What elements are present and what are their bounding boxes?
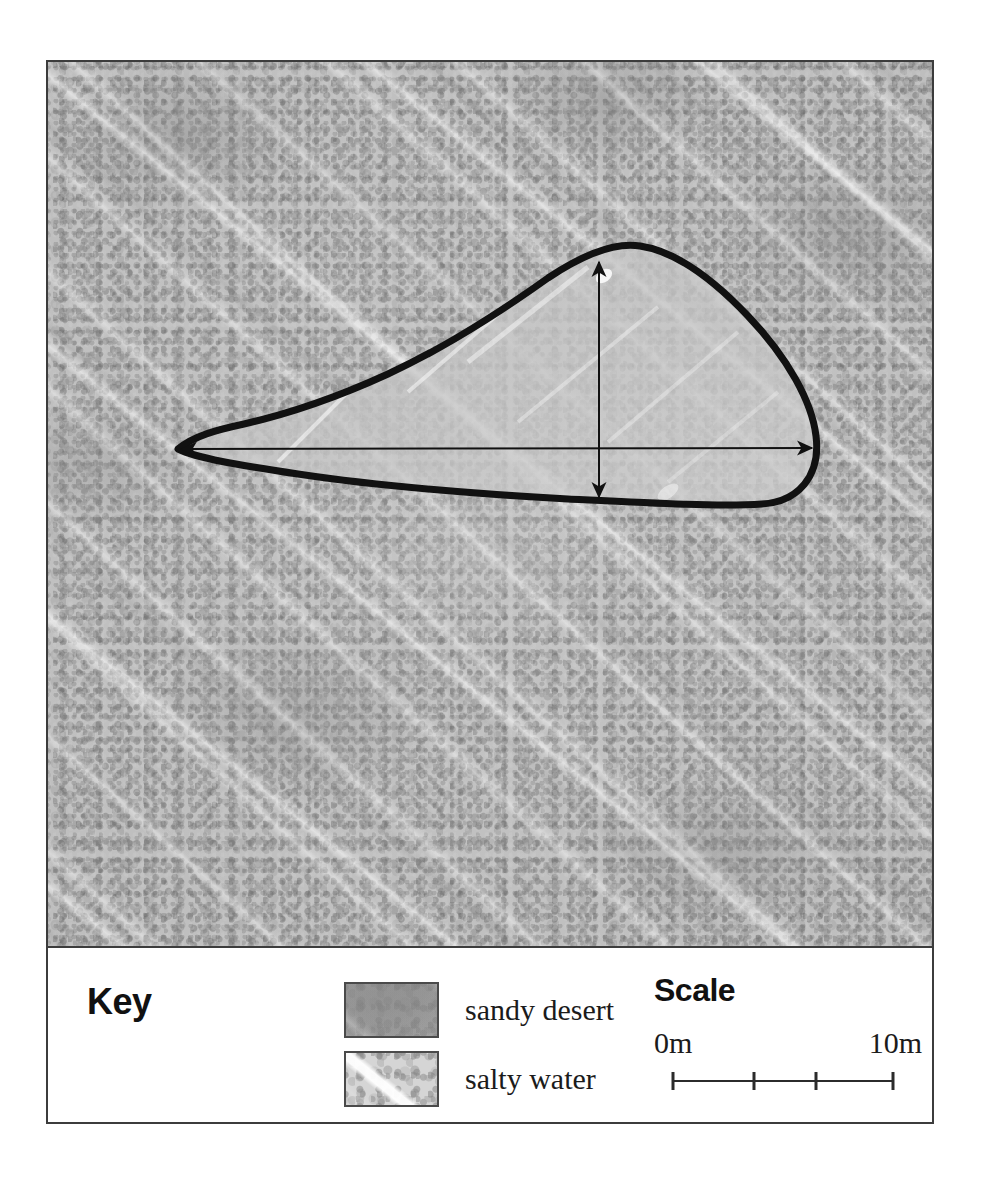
- legend-item-sandy-desert: sandy desert: [344, 982, 614, 1038]
- salty-water-fill: [148, 222, 848, 522]
- legend-label-salty-water: salty water: [465, 1062, 596, 1096]
- scale-block: 0m 10m: [654, 1026, 904, 1062]
- sandy-desert-swatch: [344, 982, 439, 1038]
- width-measure-arrow: [182, 448, 812, 449]
- scale-bar: [670, 1068, 896, 1094]
- key-title: Key: [87, 981, 152, 1023]
- legend-label-sandy-desert: sandy desert: [465, 993, 614, 1027]
- figure-frame: Key sandy desert salty water Scale: [46, 60, 934, 1124]
- swatch-streaks: [344, 1051, 439, 1107]
- figure-page: Key sandy desert salty water Scale: [0, 0, 986, 1182]
- scale-min-label: 0m: [654, 1026, 692, 1060]
- swatch-streaks: [344, 982, 439, 1038]
- scale-max-label: 10m: [869, 1026, 922, 1060]
- map-panel[interactable]: [48, 62, 932, 948]
- scale-number-row: 0m 10m: [654, 1026, 904, 1062]
- map-overlay-svg: [48, 62, 932, 948]
- legend-item-salty-water: salty water: [344, 1051, 596, 1107]
- key-panel: Key sandy desert salty water Scale: [48, 948, 932, 1122]
- salty-water-swatch: [344, 1051, 439, 1107]
- scale-title: Scale: [654, 972, 735, 1009]
